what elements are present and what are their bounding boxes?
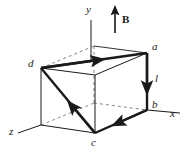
current-arrowhead-b-to-c bbox=[118, 110, 147, 123]
vertex-label-b: b bbox=[152, 99, 158, 110]
cube-edge-top-front-guide bbox=[41, 68, 95, 75]
axis-x-line bbox=[147, 110, 180, 113]
vertex-label-c: c bbox=[91, 137, 96, 148]
cube-hidden-edge-bottom-back-right bbox=[94, 103, 147, 110]
field-label-B: B bbox=[122, 14, 129, 25]
vertex-label-a: a bbox=[152, 41, 158, 52]
vertex-label-d: d bbox=[28, 58, 34, 69]
cube-hidden-edge-top-back-right bbox=[94, 46, 147, 53]
axis-label-y: y bbox=[86, 4, 91, 15]
cube-edge-bottom-front-left bbox=[41, 125, 95, 133]
axis-label-z: z bbox=[9, 126, 13, 137]
current-arrowhead-c-to-d bbox=[72, 106, 95, 133]
axis-z-line bbox=[18, 125, 41, 133]
axis-label-x: x bbox=[170, 108, 175, 119]
segment-label-l: l bbox=[155, 73, 158, 84]
physics-figure-cube-current-loop: y B a l b x d z c bbox=[0, 0, 190, 153]
cube-diagram-svg bbox=[0, 0, 190, 153]
current-arrowhead-d-to-a bbox=[41, 60, 98, 68]
